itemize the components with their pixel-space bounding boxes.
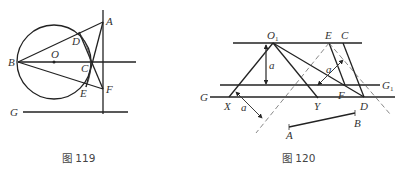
caption-120: 图 120 xyxy=(282,152,315,164)
label-g: G xyxy=(200,91,208,103)
label-o1: O1 xyxy=(267,29,279,43)
label-c: C xyxy=(81,62,89,74)
label-f: F xyxy=(105,83,113,95)
segment-df xyxy=(79,32,103,89)
label-a-vertical: a xyxy=(269,59,275,71)
label-f: F xyxy=(337,89,345,101)
label-a-point: A xyxy=(285,129,293,141)
dashed-line-left xyxy=(256,43,329,133)
label-b-point: B xyxy=(354,117,361,129)
segment-o1d xyxy=(273,43,364,97)
label-a-upper: a xyxy=(326,63,332,75)
label-b: B xyxy=(8,56,15,68)
point-o xyxy=(53,61,56,64)
label-a-lower: a xyxy=(241,101,247,113)
label-o: O xyxy=(51,48,59,60)
label-g: G xyxy=(10,106,18,118)
segment-ab xyxy=(289,113,355,127)
caption-119: 图 119 xyxy=(62,152,95,164)
figure-120: O1 E C F D X Y G G1 A B a a a 图 120 xyxy=(200,29,395,164)
label-g1: G1 xyxy=(382,79,394,93)
label-y: Y xyxy=(314,100,322,112)
label-e: E xyxy=(324,29,332,41)
label-c: C xyxy=(341,29,349,41)
label-x: X xyxy=(223,100,232,112)
segment-cd xyxy=(343,43,364,97)
label-a: A xyxy=(105,15,113,27)
arc-dce xyxy=(79,32,91,87)
label-d: D xyxy=(71,35,80,47)
label-d: D xyxy=(359,100,368,112)
label-e: E xyxy=(79,87,87,99)
arrow-a-diagonal-lower-back xyxy=(236,92,262,118)
figure-119: A B O C D E F G 图 119 xyxy=(8,10,136,164)
segment-o1y xyxy=(273,43,318,98)
